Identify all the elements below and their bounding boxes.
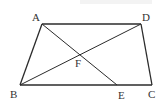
label-c: C	[148, 88, 155, 100]
label-d: D	[142, 11, 150, 23]
label-a: A	[32, 11, 40, 23]
trapezoid-outline	[20, 24, 152, 85]
side-dc	[141, 24, 152, 85]
trapezoid-diagram: A D B C E F	[0, 0, 165, 104]
label-f: F	[75, 57, 81, 69]
label-e: E	[118, 89, 125, 101]
label-b: B	[10, 88, 17, 100]
background-strip	[80, 0, 152, 4]
